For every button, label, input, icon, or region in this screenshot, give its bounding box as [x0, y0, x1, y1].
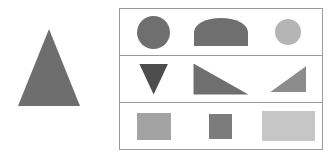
grid-cell: [187, 103, 254, 149]
rectangle-shape: [137, 113, 171, 140]
grid-cell: [120, 103, 187, 149]
right-triangle-left-angle-shape: [193, 64, 248, 95]
grid-cell: [255, 9, 322, 55]
grid-cell: [120, 9, 187, 55]
shape-grid-row-circles: [120, 9, 322, 56]
grid-cell: [187, 56, 254, 102]
shape-grid-row-rectangles: [120, 103, 322, 149]
grid-cell: [187, 9, 254, 55]
semicircle-shape: [194, 18, 248, 46]
shape-grid-row-triangles: [120, 56, 322, 103]
reference-triangle-shape: [18, 29, 80, 106]
circle-small-light-shape: [275, 19, 301, 45]
shape-grid-panel: [119, 8, 323, 150]
figure-root: [0, 0, 331, 161]
rectangle-wide-light-shape: [262, 111, 315, 141]
circle-shape: [137, 16, 170, 49]
grid-cell: [255, 56, 322, 102]
grid-cell: [255, 103, 322, 149]
triangle-down-shape: [139, 64, 168, 95]
grid-cell: [120, 56, 187, 102]
right-triangle-right-angle-shape: [270, 66, 306, 92]
square-small-shape: [209, 114, 232, 139]
reference-shape-panel: [0, 0, 110, 161]
